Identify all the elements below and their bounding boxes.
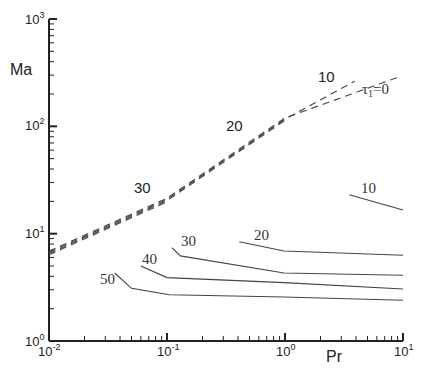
x-tick-label-0.01: 10-2 [38, 342, 60, 359]
dashed-label-10: 10 [318, 68, 335, 85]
y-axis-title: Ma [10, 61, 32, 78]
curve-solid-10 [349, 195, 403, 210]
curves [49, 77, 403, 300]
solid-label-20: 20 [254, 227, 269, 243]
curve-solid-30 [172, 248, 403, 276]
curve-dashed-10 [49, 81, 355, 252]
solid-label-40: 40 [142, 251, 157, 267]
dashed-label-20: 20 [226, 117, 243, 134]
x-tick-label-0.1: 10-1 [157, 342, 179, 359]
curve-dashed-10 [49, 77, 399, 251]
curve-solid-40 [141, 266, 403, 289]
solid-label-30: 30 [181, 233, 196, 249]
y-tick-label-10: 101 [25, 224, 44, 241]
x-tick-label-10: 101 [394, 342, 413, 359]
curve-labels: τ1=0 10 20 30 10 20 30 40 50 [100, 68, 389, 287]
x-axis-title: Pr [326, 348, 343, 365]
x-ticks [49, 333, 403, 341]
dashed-label-30: 30 [134, 179, 151, 196]
x-tick-labels: 10-2 10-1 100 101 [38, 342, 413, 359]
x-tick-label-1: 100 [276, 342, 295, 359]
chart-canvas: 100 101 102 103 10-2 10-1 100 101 Ma Pr … [0, 0, 432, 374]
y-ticks [49, 19, 57, 341]
curve-solid-20 [239, 242, 403, 255]
tau-zero-label: τ1=0 [362, 81, 389, 99]
solid-label-50: 50 [100, 271, 115, 287]
axes [49, 19, 403, 341]
solid-label-10: 10 [361, 180, 376, 196]
curve-dashed-30 [49, 202, 167, 255]
curve-dashed-20 [49, 120, 285, 253]
y-tick-label-100: 102 [25, 116, 44, 133]
y-tick-label-1000: 103 [25, 10, 44, 27]
